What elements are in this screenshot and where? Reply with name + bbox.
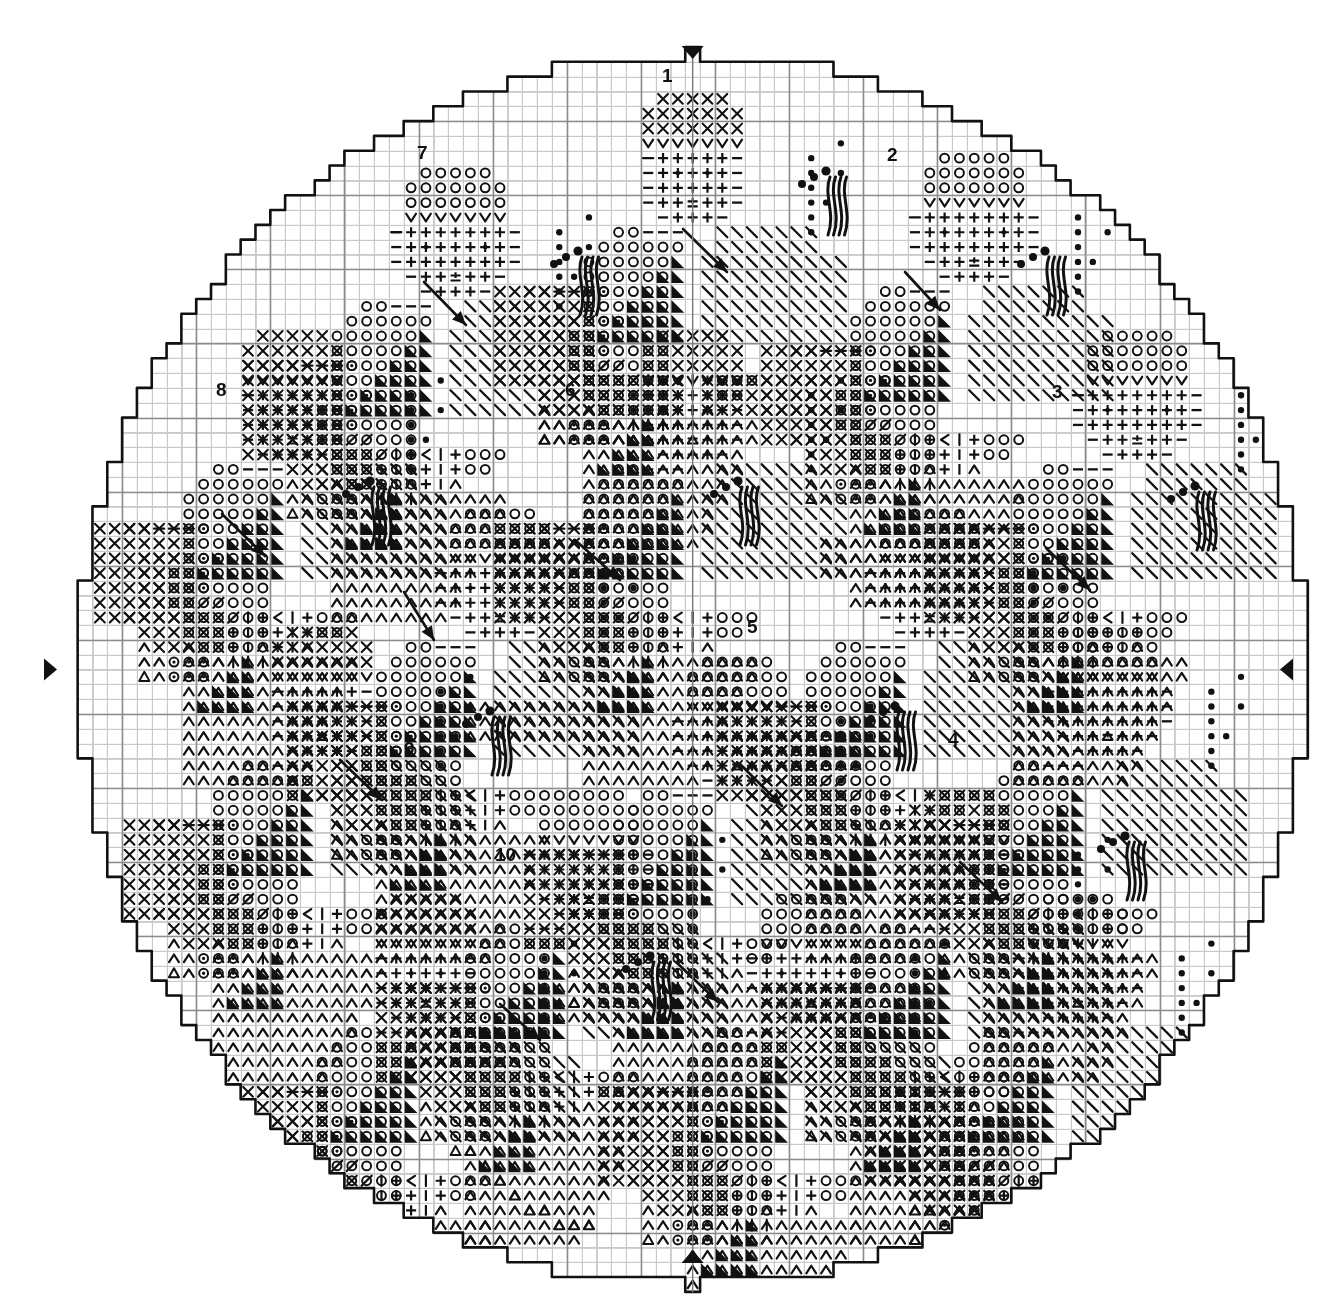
motif-number-2: 2 xyxy=(887,145,898,164)
chart-page: 12345678910 xyxy=(0,0,1336,1309)
motif-number-8: 8 xyxy=(216,380,227,399)
motif-number-9: 9 xyxy=(404,739,415,758)
motif-number-1: 1 xyxy=(662,66,673,85)
motif-number-4: 4 xyxy=(948,730,959,749)
cross-stitch-chart-canvas xyxy=(0,0,1336,1309)
motif-number-3: 3 xyxy=(1052,382,1063,401)
motif-number-6: 6 xyxy=(565,380,576,399)
motif-number-7: 7 xyxy=(417,143,428,162)
motif-number-10: 10 xyxy=(495,845,516,864)
motif-number-5: 5 xyxy=(747,617,758,636)
